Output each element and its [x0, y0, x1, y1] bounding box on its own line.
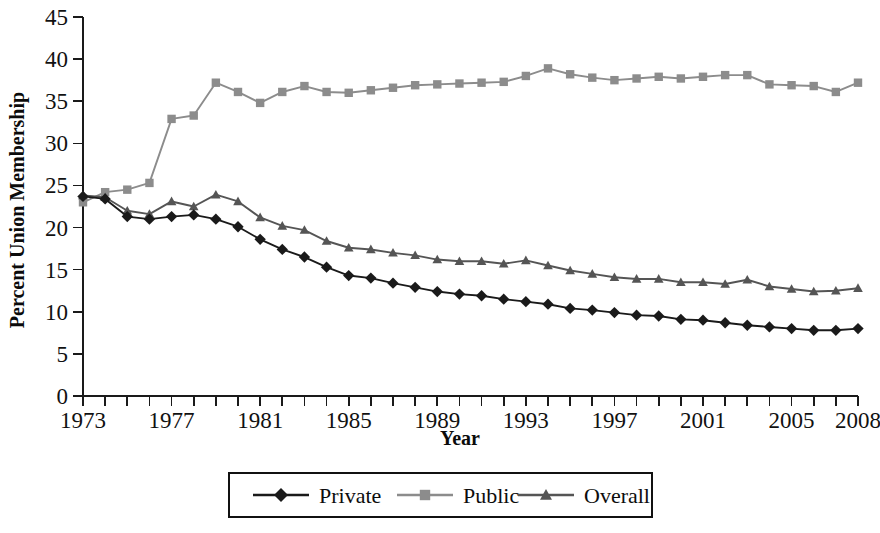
marker-public — [345, 89, 353, 97]
y-tick-label: 40 — [45, 47, 68, 72]
marker-public — [477, 78, 485, 86]
marker-public — [389, 84, 397, 92]
x-tick-label: 1993 — [503, 408, 549, 433]
marker-public — [411, 81, 419, 89]
union-membership-chart-figure: Percent Union Membership Year 0510152025… — [0, 0, 880, 533]
marker-private — [210, 213, 221, 224]
y-tick-label: 25 — [45, 173, 68, 198]
marker-public — [278, 88, 286, 96]
chart-legend: PrivatePublicOverall — [229, 473, 652, 517]
y-tick-label: 10 — [45, 300, 68, 325]
x-tick-label: 2001 — [680, 408, 726, 433]
marker-public — [832, 88, 840, 96]
marker-private — [144, 213, 155, 224]
marker-private — [409, 282, 420, 293]
y-axis-title: Percent Union Membership — [6, 92, 29, 328]
marker-public — [787, 81, 795, 89]
marker-private — [299, 251, 310, 262]
marker-public — [610, 76, 618, 84]
marker-private — [387, 277, 398, 288]
marker-private — [520, 296, 531, 307]
marker-public — [544, 64, 552, 72]
marker-private — [542, 299, 553, 310]
marker-private — [742, 320, 753, 331]
marker-private — [697, 315, 708, 326]
marker-public — [743, 71, 751, 79]
legend-label-private: Private — [319, 483, 381, 508]
marker-public — [721, 71, 729, 79]
marker-private — [653, 310, 664, 321]
marker-public — [300, 82, 308, 90]
x-tick-label: 1973 — [60, 408, 106, 433]
marker-public — [632, 74, 640, 82]
marker-private — [719, 317, 730, 328]
marker-private — [808, 325, 819, 336]
marker-private — [432, 286, 443, 297]
marker-public — [854, 78, 862, 86]
marker-overall — [322, 236, 332, 245]
y-tick-label: 30 — [45, 131, 68, 156]
marker-private — [764, 321, 775, 332]
y-axis-ticks: 051015202530354045 — [45, 5, 83, 409]
marker-private — [454, 288, 465, 299]
marker-public — [212, 78, 220, 86]
x-tick-label: 1997 — [591, 408, 637, 433]
marker-private — [476, 290, 487, 301]
y-tick-label: 45 — [45, 5, 68, 30]
marker-private — [365, 272, 376, 283]
marker-private — [675, 314, 686, 325]
y-tick-label: 20 — [45, 216, 68, 241]
axis-spines — [83, 17, 858, 396]
y-tick-label: 0 — [57, 384, 69, 409]
marker-public — [810, 82, 818, 90]
y-tick-label: 35 — [45, 89, 68, 114]
marker-private — [343, 270, 354, 281]
series-private — [77, 191, 863, 336]
marker-public — [699, 73, 707, 81]
x-tick-label: 2005 — [769, 408, 815, 433]
legend-label-public: Public — [463, 483, 519, 508]
marker-public — [588, 73, 596, 81]
x-tick-label: 1981 — [237, 408, 283, 433]
marker-private — [498, 293, 509, 304]
marker-private — [188, 209, 199, 220]
marker-private — [609, 307, 620, 318]
marker-public — [367, 86, 375, 94]
marker-private — [587, 304, 598, 315]
marker-public — [765, 80, 773, 88]
marker-public — [677, 74, 685, 82]
marker-private — [232, 221, 243, 232]
marker-overall — [167, 197, 177, 206]
marker-private — [564, 303, 575, 314]
marker-public — [256, 99, 264, 107]
marker-public — [145, 179, 153, 187]
marker-public — [455, 79, 463, 87]
line-chart-canvas: Percent Union Membership Year 0510152025… — [0, 0, 880, 533]
marker-private — [277, 244, 288, 255]
marker-public — [190, 111, 198, 119]
marker-public — [655, 73, 663, 81]
marker-public — [566, 70, 574, 78]
marker-public — [322, 88, 330, 96]
marker-private — [830, 325, 841, 336]
x-tick-label: 2008 — [835, 408, 880, 433]
marker-public — [433, 80, 441, 88]
marker-public — [522, 72, 530, 80]
marker-overall — [211, 190, 221, 199]
series-public — [79, 64, 862, 206]
x-tick-label: 1989 — [414, 408, 460, 433]
marker-private — [786, 323, 797, 334]
marker-private — [321, 261, 332, 272]
legend-label-overall: Overall — [584, 483, 650, 508]
series-overall — [78, 190, 863, 295]
y-tick-label: 5 — [57, 342, 69, 367]
marker-private — [166, 211, 177, 222]
marker-private — [631, 309, 642, 320]
marker-public — [234, 88, 242, 96]
x-tick-label: 1977 — [149, 408, 195, 433]
x-tick-label: 1985 — [326, 408, 372, 433]
marker-private — [852, 323, 863, 334]
marker-public — [167, 115, 175, 123]
legend-marker-public — [420, 490, 430, 500]
marker-public — [500, 78, 508, 86]
